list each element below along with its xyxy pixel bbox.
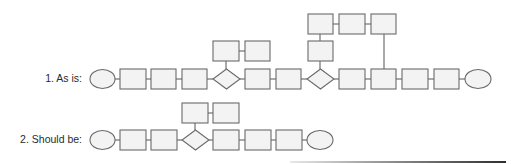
process-step (434, 69, 459, 89)
decision-gateway (307, 69, 334, 89)
process-step (339, 69, 365, 89)
branch-step (213, 41, 239, 61)
start-event (90, 131, 115, 150)
branch-step (371, 14, 396, 34)
end-event (307, 131, 333, 150)
decision-gateway (213, 69, 240, 89)
flow-graphics (0, 0, 511, 164)
process-step (182, 69, 207, 89)
as-is-flow (90, 14, 491, 89)
start-event (90, 70, 115, 89)
branch-step (245, 41, 270, 61)
bottom-rule (290, 161, 506, 163)
decision-gateway (182, 130, 209, 150)
process-step (276, 130, 302, 150)
branch-step (182, 103, 208, 123)
process-step (245, 130, 271, 150)
process-step (120, 130, 146, 150)
branch-step (339, 14, 365, 34)
process-comparison-diagram: 1. As is: 2. Should be: (0, 0, 511, 164)
process-step (213, 130, 239, 150)
branch-step (213, 103, 239, 123)
process-step (120, 69, 146, 89)
branch-step (308, 41, 333, 61)
process-step (245, 69, 270, 89)
end-event (465, 70, 491, 89)
process-step (151, 130, 177, 150)
should-be-flow (90, 103, 333, 150)
branch-step (308, 14, 333, 34)
process-step (371, 69, 396, 89)
process-step (276, 69, 301, 89)
process-step (151, 69, 176, 89)
process-step (402, 69, 428, 89)
